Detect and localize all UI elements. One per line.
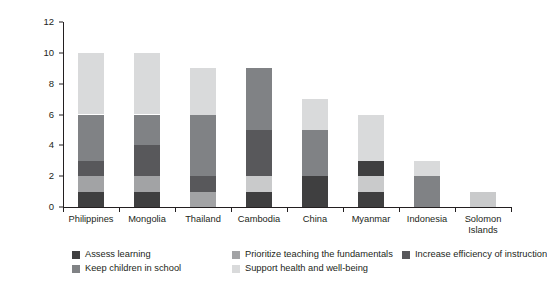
legend-label: Keep children in school	[85, 263, 181, 274]
x-tick-mark	[399, 207, 400, 212]
legend-item[interactable]: Increase efficiency of instruction	[402, 249, 547, 260]
bar-segment[interactable]	[134, 192, 160, 207]
bar-segment[interactable]	[190, 176, 216, 191]
stacked-bar[interactable]	[78, 22, 104, 207]
bar-segment[interactable]	[190, 115, 216, 177]
x-tick-mark	[343, 207, 344, 212]
bar-segment[interactable]	[302, 130, 328, 176]
x-tick-mark	[231, 207, 232, 212]
bar-segment[interactable]	[358, 176, 384, 191]
bar-segment[interactable]	[78, 53, 104, 115]
y-tick-label: 6	[0, 110, 59, 120]
bar-group[interactable]	[287, 22, 343, 207]
bar-segment[interactable]	[246, 176, 272, 191]
bar-group[interactable]	[63, 22, 119, 207]
legend-swatch-icon	[72, 251, 80, 259]
bar-segment[interactable]	[358, 161, 384, 176]
bar-segment[interactable]	[414, 176, 440, 207]
legend-item[interactable]: Keep children in school	[72, 263, 181, 274]
bar-segment[interactable]	[246, 130, 272, 176]
bar-segment[interactable]	[190, 192, 216, 207]
x-axis-label: Mongolia	[119, 214, 175, 225]
legend-item[interactable]: Prioritize teaching the fundamentals	[232, 249, 393, 260]
bar-segment[interactable]	[134, 53, 160, 115]
legend-row: Keep children in schoolSupport health an…	[72, 263, 502, 277]
bar-segment[interactable]	[134, 145, 160, 176]
stacked-bar[interactable]	[134, 22, 160, 207]
bar-segment[interactable]	[78, 161, 104, 176]
bar-segment[interactable]	[134, 176, 160, 191]
legend-label: Increase efficiency of instruction	[415, 249, 547, 260]
bar-group[interactable]	[343, 22, 399, 207]
y-tick-label: 0	[0, 202, 59, 212]
x-tick-mark	[119, 207, 120, 212]
x-tick-mark	[511, 207, 512, 212]
stacked-bar[interactable]	[246, 22, 272, 207]
bar-segment[interactable]	[358, 115, 384, 161]
bars-container	[63, 22, 511, 207]
stacked-bar[interactable]	[190, 22, 216, 207]
legend-swatch-icon	[402, 251, 410, 259]
legend-swatch-icon	[232, 265, 240, 273]
bar-group[interactable]	[231, 22, 287, 207]
y-tick-label: 10	[0, 48, 59, 58]
bar-segment[interactable]	[302, 99, 328, 130]
bar-segment[interactable]	[358, 192, 384, 207]
bar-segment[interactable]	[302, 176, 328, 207]
bar-segment[interactable]	[78, 176, 104, 191]
stacked-bar[interactable]	[358, 22, 384, 207]
x-axis-label: Thailand	[175, 214, 231, 225]
x-tick-mark	[287, 207, 288, 212]
stacked-bar[interactable]	[302, 22, 328, 207]
bar-group[interactable]	[455, 22, 511, 207]
legend-row: Assess learningPrioritize teaching the f…	[72, 249, 502, 263]
bar-segment[interactable]	[470, 192, 496, 207]
legend-swatch-icon	[72, 265, 80, 273]
x-tick-mark	[455, 207, 456, 212]
bar-segment[interactable]	[134, 115, 160, 146]
x-axis-label: China	[287, 214, 343, 225]
y-tick-label: 8	[0, 79, 59, 89]
x-axis-label: Indonesia	[399, 214, 455, 225]
bar-group[interactable]	[119, 22, 175, 207]
legend-label: Assess learning	[85, 249, 151, 260]
y-tick-label: 12	[0, 17, 59, 27]
x-axis-label: Myanmar	[343, 214, 399, 225]
bar-segment[interactable]	[78, 192, 104, 207]
x-tick-mark	[63, 207, 64, 212]
bar-group[interactable]	[175, 22, 231, 207]
x-axis-label: Cambodia	[231, 214, 287, 225]
legend-label: Prioritize teaching the fundamentals	[245, 249, 393, 260]
x-tick-mark	[175, 207, 176, 212]
bar-segment[interactable]	[414, 161, 440, 176]
bar-segment[interactable]	[78, 115, 104, 161]
stacked-bar[interactable]	[414, 22, 440, 207]
legend-swatch-icon	[232, 251, 240, 259]
y-tick-label: 4	[0, 140, 59, 150]
bar-segment[interactable]	[190, 68, 216, 114]
x-axis-label: Philippines	[63, 214, 119, 225]
chart-legend: Assess learningPrioritize teaching the f…	[72, 249, 502, 277]
bar-group[interactable]	[399, 22, 455, 207]
x-axis-label: Solomon Islands	[455, 214, 511, 236]
stacked-bar[interactable]	[470, 22, 496, 207]
bar-segment[interactable]	[246, 68, 272, 130]
legend-item[interactable]: Support health and well-being	[232, 263, 368, 274]
legend-item[interactable]: Assess learning	[72, 249, 151, 260]
y-tick-label: 2	[0, 171, 59, 181]
bar-segment[interactable]	[246, 192, 272, 207]
legend-label: Support health and well-being	[245, 263, 368, 274]
